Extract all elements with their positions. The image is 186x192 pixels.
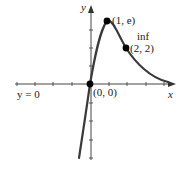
x-axis-label: x: [167, 88, 173, 100]
x-axis-arrow-icon: [168, 81, 176, 87]
y-axis-arrow-icon: [88, 5, 94, 13]
inflection-point-label: (2, 2): [130, 42, 154, 55]
inflection-tag: inf: [137, 30, 150, 42]
inflection-point: [123, 45, 130, 52]
origin-label: (0, 0): [93, 86, 117, 99]
asymptote-label: y = 0: [17, 88, 40, 100]
y-axis-label: y: [80, 1, 86, 13]
max-point-label: (1, e): [112, 14, 136, 27]
function-graph: y x (0, 0) (1, e) inf (2, 2) y = 0: [0, 0, 186, 192]
maximum-point: [104, 18, 111, 25]
